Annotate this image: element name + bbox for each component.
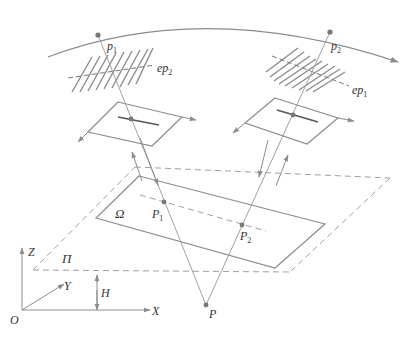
trajectory-arc [48, 29, 398, 62]
label-X: X [151, 304, 160, 318]
region-omega [96, 176, 325, 268]
left-up-arrow [132, 152, 142, 181]
point-P [204, 303, 209, 308]
label-omega: Ω [115, 206, 124, 221]
stereo-geometry-diagram: p1 p2 ep2 ep1 Ω P1 P2 P Π Z Y H O X [0, 0, 411, 339]
label-p2: p2 [330, 39, 341, 55]
label-ep2: ep2 [157, 61, 172, 77]
world-axes [22, 248, 150, 310]
label-P2: P2 [239, 229, 251, 245]
point-p1 [95, 32, 100, 37]
label-p1: p1 [106, 39, 117, 55]
point-P2 [240, 223, 245, 228]
label-Y: Y [64, 279, 72, 293]
right-plane-center [291, 113, 296, 118]
left-plane-center [129, 117, 134, 122]
right-image-plane [233, 98, 354, 144]
right-up-arrow [276, 155, 288, 186]
label-pi: Π [61, 251, 73, 266]
left-image-plane [78, 102, 196, 146]
point-P1 [162, 200, 167, 205]
label-Z: Z [28, 245, 35, 259]
label-H: H [100, 286, 111, 300]
label-ep1: ep1 [352, 83, 367, 99]
ray-p2-to-P [206, 32, 330, 305]
label-O: O [10, 313, 19, 327]
label-P1: P1 [151, 207, 163, 223]
label-P: P [208, 307, 217, 321]
point-p2 [327, 29, 332, 34]
ground-plane-pi [33, 167, 390, 272]
